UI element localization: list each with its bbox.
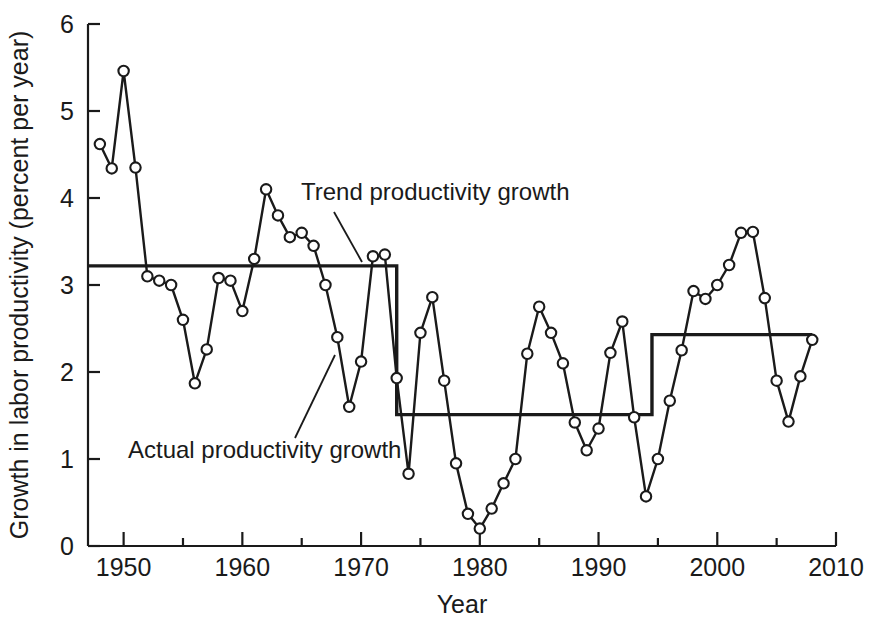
data-point-marker — [534, 302, 544, 312]
data-point-marker — [356, 356, 366, 366]
data-point-marker — [712, 280, 722, 290]
data-point-marker — [261, 184, 271, 194]
trend-annotation-leader — [334, 212, 362, 262]
data-point-marker — [249, 254, 259, 264]
data-point-marker — [522, 349, 532, 359]
y-tick-label: 0 — [60, 532, 74, 560]
x-tick-label: 2000 — [689, 553, 745, 581]
data-point-marker — [142, 271, 152, 281]
data-point-marker — [451, 458, 461, 468]
data-point-marker — [190, 378, 200, 388]
y-axis-title: Growth in labor productivity (percent pe… — [5, 31, 33, 540]
x-axis-group: 1950196019701980199020002010 — [88, 532, 864, 581]
x-tick-label: 1990 — [571, 553, 627, 581]
data-point-marker — [605, 348, 615, 358]
y-tick-label: 1 — [60, 445, 74, 473]
data-point-marker — [439, 376, 449, 386]
data-point-marker — [486, 503, 496, 513]
data-point-marker — [783, 416, 793, 426]
y-tick-label: 2 — [60, 358, 74, 386]
y-axis-tick-labels: 0123456 — [60, 10, 74, 560]
data-point-marker — [617, 316, 627, 326]
data-point-marker — [581, 445, 591, 455]
x-tick-label: 2010 — [808, 553, 864, 581]
data-point-marker — [653, 454, 663, 464]
data-point-marker — [273, 210, 283, 220]
data-point-marker — [118, 66, 128, 76]
data-point-marker — [760, 293, 770, 303]
data-point-marker — [593, 423, 603, 433]
data-point-marker — [665, 396, 675, 406]
data-point-marker — [475, 523, 485, 533]
y-axis-ticks — [88, 24, 100, 546]
data-point-marker — [308, 241, 318, 251]
data-point-marker — [403, 469, 413, 479]
data-point-marker — [166, 280, 176, 290]
data-point-marker — [107, 163, 117, 173]
data-point-marker — [427, 292, 437, 302]
data-point-marker — [332, 332, 342, 342]
data-point-marker — [688, 286, 698, 296]
data-point-marker — [130, 162, 140, 172]
x-tick-label: 1970 — [333, 553, 389, 581]
data-point-marker — [795, 371, 805, 381]
data-point-marker — [95, 139, 105, 149]
data-point-marker — [285, 232, 295, 242]
x-tick-label: 1960 — [215, 553, 271, 581]
data-point-marker — [344, 402, 354, 412]
data-point-marker — [570, 417, 580, 427]
actual-productivity-growth-markers — [95, 66, 818, 534]
data-point-marker — [392, 373, 402, 383]
x-tick-label: 1980 — [452, 553, 508, 581]
data-point-marker — [154, 275, 164, 285]
y-tick-label: 6 — [60, 10, 74, 38]
data-point-marker — [546, 328, 556, 338]
data-point-marker — [368, 251, 378, 261]
productivity-growth-line-chart: 0123456 1950196019701980199020002010 Tre… — [0, 0, 869, 622]
y-axis-group: 0123456 — [60, 10, 100, 560]
data-point-marker — [558, 358, 568, 368]
data-point-marker — [297, 228, 307, 238]
actual-annotation-leader — [295, 355, 335, 438]
y-tick-label: 4 — [60, 184, 74, 212]
trend-annotation-label: Trend productivity growth — [301, 178, 570, 205]
data-point-marker — [736, 228, 746, 238]
data-point-marker — [676, 345, 686, 355]
x-tick-label: 1950 — [96, 553, 152, 581]
data-point-marker — [213, 273, 223, 283]
data-point-marker — [380, 249, 390, 259]
x-axis-title: Year — [437, 590, 488, 618]
data-point-marker — [807, 335, 817, 345]
data-point-marker — [748, 227, 758, 237]
data-point-marker — [463, 509, 473, 519]
data-point-marker — [510, 454, 520, 464]
data-point-marker — [178, 315, 188, 325]
plot-area — [88, 66, 817, 534]
data-point-marker — [700, 294, 710, 304]
annotations-group: Trend productivity growth Actual product… — [128, 178, 570, 463]
data-point-marker — [498, 478, 508, 488]
actual-annotation-label: Actual productivity growth — [128, 436, 401, 463]
data-point-marker — [225, 275, 235, 285]
data-point-marker — [320, 280, 330, 290]
data-point-marker — [641, 491, 651, 501]
data-point-marker — [629, 412, 639, 422]
trend-productivity-growth-line — [88, 266, 812, 415]
data-point-marker — [771, 376, 781, 386]
y-tick-label: 5 — [60, 97, 74, 125]
y-tick-label: 3 — [60, 271, 74, 299]
data-point-marker — [202, 344, 212, 354]
data-point-marker — [237, 306, 247, 316]
chart-container: 0123456 1950196019701980199020002010 Tre… — [0, 0, 869, 622]
x-axis-tick-labels: 1950196019701980199020002010 — [96, 553, 864, 581]
data-point-marker — [415, 328, 425, 338]
data-point-marker — [724, 260, 734, 270]
